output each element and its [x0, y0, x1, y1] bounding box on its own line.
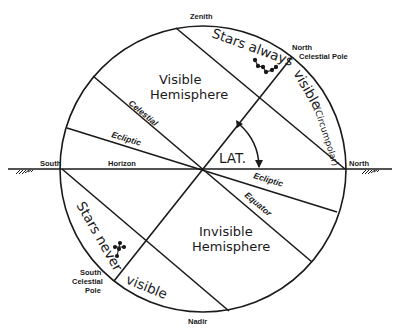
visible-hemisphere-label-2: Hemisphere	[150, 87, 228, 102]
nadir-label: Nadir	[188, 317, 207, 326]
stars-always-label: Stars always	[210, 25, 296, 69]
latitude-arrow-head-bottom	[255, 160, 263, 168]
never-visible-label: visible	[124, 271, 170, 302]
ecliptic-upper-label: Ecliptic	[110, 129, 142, 147]
ground-hatch-north	[362, 170, 379, 174]
north-label: North	[349, 159, 369, 168]
scp-label-line1: South	[80, 268, 102, 277]
invisible-hemisphere-label-1: Invisible	[199, 224, 253, 239]
ncp-label-line2: Celestial Pole	[299, 52, 348, 61]
circumpolar-label: (Circumpolar)	[312, 106, 341, 168]
ncp-label-line1: North	[292, 43, 312, 52]
scp-label-line2: Celestial	[72, 277, 103, 286]
stars-never-label: Stars never	[73, 199, 126, 275]
ecliptic-lower-label: Ecliptic	[252, 170, 284, 188]
equator-label: Equator	[243, 190, 275, 219]
celestial-sphere-diagram: Zenith Nadir South North Horizon North C…	[0, 0, 398, 336]
invisible-hemisphere-label-2: Hemisphere	[192, 239, 270, 254]
celestial-label: Celestial	[127, 98, 161, 129]
ground-hatch-south	[16, 170, 33, 174]
zenith-label: Zenith	[190, 12, 213, 21]
scp-label-line3: Pole	[85, 286, 101, 295]
horizon-label: Horizon	[108, 159, 136, 168]
latitude-label: LAT.	[219, 150, 246, 166]
south-label: South	[40, 159, 62, 168]
visible-hemisphere-label-1: Visible	[159, 72, 201, 87]
ecliptic-line	[67, 128, 337, 212]
